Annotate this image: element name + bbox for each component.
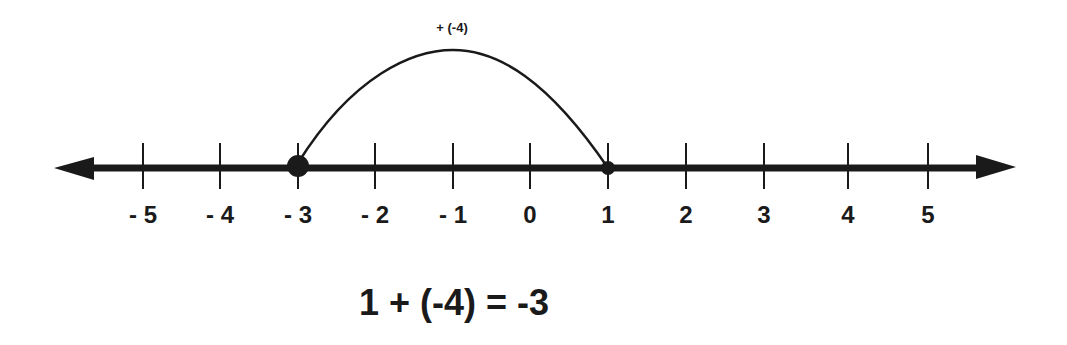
tick-label: 2 bbox=[679, 203, 692, 227]
tick-label: - 4 bbox=[206, 203, 234, 227]
jump-label: + (-4) bbox=[436, 21, 467, 34]
tick-label: 5 bbox=[921, 203, 934, 227]
equation: 1 + (-4) = -3 bbox=[359, 285, 549, 321]
tick-label: 1 bbox=[601, 203, 614, 227]
tick-label: - 3 bbox=[284, 203, 312, 227]
right-arrow-icon bbox=[976, 155, 1016, 179]
tick-label: 4 bbox=[841, 203, 854, 227]
tick-label: 0 bbox=[523, 203, 536, 227]
end-point bbox=[287, 155, 309, 177]
tick-label: - 1 bbox=[439, 203, 467, 227]
start-point bbox=[601, 161, 615, 175]
number-line-diagram: - 5- 4- 3- 2- 1012345 + (-4) 1 + (-4) = … bbox=[0, 0, 1067, 345]
tick-label: - 2 bbox=[361, 203, 389, 227]
left-arrow-icon bbox=[54, 157, 94, 180]
tick-label: - 5 bbox=[129, 203, 157, 227]
tick-label: 3 bbox=[757, 203, 770, 227]
